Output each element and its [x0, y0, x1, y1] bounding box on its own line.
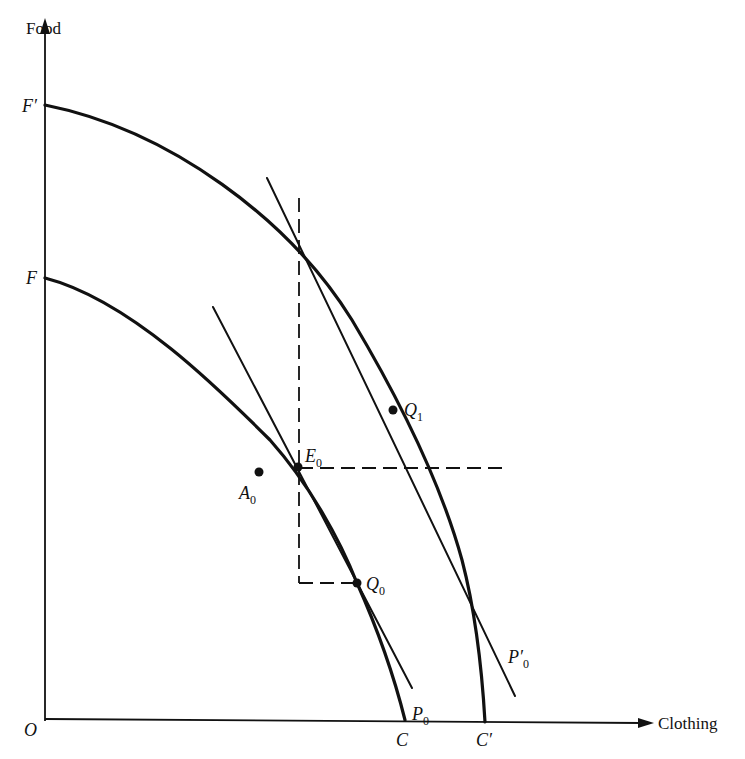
label-p0: P0 [411, 704, 429, 728]
origin-label: O [24, 720, 37, 740]
y-axis-label: Food [26, 19, 61, 38]
x-axis [45, 719, 642, 723]
x-axis-arrow-icon [638, 718, 654, 728]
ppf-diagram: Food Clothing O F′ F C C′ A0 E0 Q0 Q1 P0… [0, 0, 745, 759]
label-q0: Q0 [366, 574, 385, 598]
label-a0: A0 [238, 483, 256, 507]
label-c-prime: C′ [476, 730, 493, 750]
label-c: C [396, 730, 409, 750]
label-f-prime: F′ [21, 96, 38, 116]
label-p0-prime: P′0 [507, 647, 529, 671]
x-axis-label: Clothing [658, 714, 718, 733]
diagram-canvas: Food Clothing O F′ F C C′ A0 E0 Q0 Q1 P0… [0, 0, 745, 759]
price-line-p0-prime [267, 178, 515, 696]
point-q1 [389, 406, 398, 415]
point-a0 [255, 468, 264, 477]
original-ppf-curve [45, 278, 405, 720]
label-e0: E0 [304, 446, 322, 470]
point-q0 [353, 579, 362, 588]
label-f: F [25, 268, 38, 288]
point-e0 [294, 463, 303, 472]
axes [40, 18, 654, 728]
